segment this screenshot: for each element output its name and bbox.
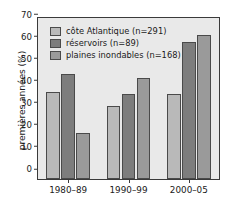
y-axis-tick-mark xyxy=(34,146,38,147)
y-axis-tick: 0 xyxy=(17,163,38,174)
y-axis-tick: 50 xyxy=(17,53,38,64)
bar xyxy=(122,94,136,179)
y-axis-tick: 20 xyxy=(17,119,38,130)
x-axis-tick-mark xyxy=(68,179,69,183)
bar xyxy=(182,42,196,179)
y-axis-tick-mark xyxy=(34,102,38,103)
y-axis-tick: 10 xyxy=(17,141,38,152)
bar xyxy=(137,78,151,179)
legend-swatch xyxy=(50,27,61,36)
y-axis-tick-mark xyxy=(34,80,38,81)
legend-item: réservoirs (n=89) xyxy=(50,37,181,49)
y-axis-tick-mark xyxy=(34,36,38,37)
x-axis-tick-label: 1980–89 xyxy=(49,185,87,195)
bar-chart-figure: premières années (%) 010203040506070 198… xyxy=(0,0,233,214)
y-axis-tick: 40 xyxy=(17,75,38,86)
bar xyxy=(46,92,60,179)
legend-label: plaines inondables (n=168) xyxy=(66,50,181,60)
x-axis-tick-label: 2000–05 xyxy=(170,185,208,195)
legend-swatch xyxy=(50,39,61,48)
bar xyxy=(61,74,75,179)
y-axis-tick-label: 40 xyxy=(17,76,32,86)
bar xyxy=(107,106,121,179)
y-axis-tick-label: 0 xyxy=(17,164,32,174)
y-axis-tick: 30 xyxy=(17,97,38,108)
y-axis-tick-label: 20 xyxy=(17,120,32,130)
legend-item: côte Atlantique (n=291) xyxy=(50,25,181,37)
y-axis-tick-label: 60 xyxy=(17,31,32,41)
x-axis-tick-mark xyxy=(189,179,190,183)
y-axis-tick-mark xyxy=(34,14,38,15)
legend-label: côte Atlantique (n=291) xyxy=(66,26,166,36)
legend-swatch xyxy=(50,51,61,60)
legend-label: réservoirs (n=89) xyxy=(66,38,139,48)
x-axis-tick-label: 1990–99 xyxy=(110,185,148,195)
y-axis-tick-mark xyxy=(34,168,38,169)
bar xyxy=(197,35,211,179)
bar xyxy=(76,133,90,179)
bar xyxy=(167,94,181,179)
y-axis-tick-mark xyxy=(34,124,38,125)
y-axis-tick: 60 xyxy=(17,31,38,42)
y-axis-tick-label: 10 xyxy=(17,142,32,152)
legend-item: plaines inondables (n=168) xyxy=(50,49,181,61)
y-axis-tick-label: 50 xyxy=(17,53,32,63)
x-axis-tick-mark xyxy=(129,179,130,183)
chart-legend: côte Atlantique (n=291)réservoirs (n=89)… xyxy=(48,23,184,63)
y-axis-tick-label: 30 xyxy=(17,98,32,108)
y-axis-tick-mark xyxy=(34,58,38,59)
plot-area: 010203040506070 1980–891990–992000–05 cô… xyxy=(37,17,220,180)
y-axis-tick: 70 xyxy=(17,9,38,20)
y-axis-tick-label: 70 xyxy=(17,9,32,19)
